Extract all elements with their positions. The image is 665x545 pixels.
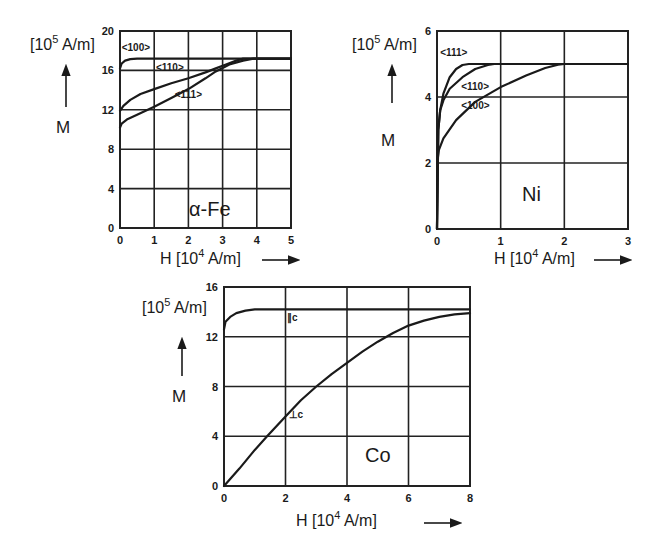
chart-co: 024680481216∥c⊥cCo[105 A/m]MH [104 A/m]	[142, 281, 473, 529]
x-tick-label: 0	[221, 492, 227, 504]
curve-label: ⊥c	[289, 409, 304, 420]
y-axis-symbol-fe: M	[56, 118, 70, 137]
x-tick-label: 3	[220, 234, 226, 246]
x-tick-label: 2	[561, 235, 567, 247]
chart-ni: 01230246<111><110><100>Ni[105 A/m]MH [10…	[352, 25, 631, 267]
y-tick-label: 16	[206, 281, 218, 293]
curve-label: <111>	[175, 89, 202, 100]
x-tick-label: 2	[282, 492, 288, 504]
grid-co	[224, 287, 470, 486]
magnetization-curves-figure: 012345048121620<100><110><111>α-Fe[105 A…	[0, 0, 665, 545]
curve-label: ∥c	[287, 312, 298, 324]
x-tick-label: 6	[405, 492, 411, 504]
curve-label: <110>	[461, 81, 489, 92]
y-tick-label: 8	[212, 381, 218, 393]
curve-label: <100>	[461, 100, 490, 111]
x-tick-label: 4	[344, 492, 351, 504]
curve-fe-110	[120, 59, 291, 111]
curve-label: <111>	[440, 47, 467, 58]
y-tick-label: 0	[108, 222, 114, 234]
y-tick-label: 0	[425, 223, 431, 235]
y-axis-symbol-ni: M	[381, 131, 395, 150]
y-tick-label: 20	[102, 25, 114, 37]
element-title-fe: α-Fe	[189, 198, 231, 220]
curve-label: <100>	[122, 42, 151, 53]
chart-fe: 012345048121620<100><110><111>α-Fe[105 A…	[30, 25, 294, 267]
x-tick-label: 4	[254, 234, 261, 246]
element-title-ni: Ni	[522, 183, 541, 205]
x-tick-label: 0	[434, 235, 440, 247]
x-axis-label-ni: H [104 A/m]	[494, 247, 575, 267]
curve-label: <110>	[156, 62, 184, 73]
x-tick-label: 2	[185, 234, 191, 246]
y-tick-label: 8	[108, 143, 114, 155]
y-tick-label: 4	[425, 91, 432, 103]
y-tick-label: 12	[206, 331, 218, 343]
y-axis-unit-fe: [105 A/m]	[30, 33, 95, 53]
x-tick-label: 5	[288, 234, 294, 246]
x-axis-label-fe: H [104 A/m]	[160, 247, 241, 267]
x-tick-label: 8	[467, 492, 473, 504]
y-axis-symbol-co: M	[172, 387, 186, 406]
y-axis-unit-co: [105 A/m]	[142, 296, 207, 316]
x-tick-label: 3	[625, 235, 631, 247]
y-tick-label: 4	[212, 430, 219, 442]
x-tick-label: 0	[117, 234, 123, 246]
y-tick-label: 12	[102, 104, 114, 116]
element-title-co: Co	[365, 444, 391, 466]
y-tick-label: 16	[102, 64, 114, 76]
y-tick-label: 2	[425, 157, 431, 169]
y-tick-label: 0	[212, 480, 218, 492]
y-tick-label: 4	[108, 183, 115, 195]
x-tick-label: 1	[151, 234, 157, 246]
curve-fe-100	[120, 59, 291, 69]
y-tick-label: 6	[425, 25, 431, 37]
y-axis-unit-ni: [105 A/m]	[352, 33, 417, 53]
x-tick-label: 1	[498, 235, 504, 247]
x-axis-label-co: H [104 A/m]	[296, 509, 377, 529]
